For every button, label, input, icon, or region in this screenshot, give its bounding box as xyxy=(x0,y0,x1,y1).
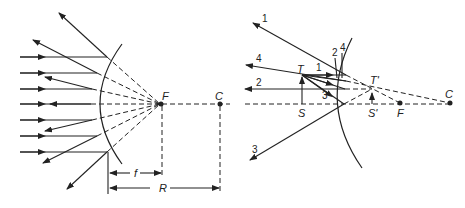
mirror-diagram: F C f R T S T' S' xyxy=(0,0,465,208)
center-label-right: C xyxy=(445,88,453,100)
image-base-label: S' xyxy=(368,107,378,119)
radius-label: R xyxy=(159,182,167,194)
focus-label-right: F xyxy=(397,107,405,119)
ray-4-label-outer: 4 xyxy=(256,53,262,64)
ray-1-label-inner: 1 xyxy=(316,62,322,73)
ray-2-label-mirror: 2 xyxy=(332,47,338,58)
ray-3-label-outer: 3 xyxy=(252,144,258,155)
object-base-label: S xyxy=(298,107,306,119)
focus-label: F xyxy=(162,90,170,102)
ray-3-label-inner: 3 xyxy=(322,90,328,101)
ray-4-label-mirror: 4 xyxy=(340,42,346,53)
virtual-rays-to-focus xyxy=(91,57,160,152)
left-panel: F C f R xyxy=(20,13,230,194)
reflected-rays xyxy=(33,13,107,189)
convex-mirror xyxy=(337,38,362,168)
focal-length-dimension: f xyxy=(110,167,161,179)
ray-1-label-outer: 1 xyxy=(262,13,268,24)
image-top-label: T' xyxy=(370,74,380,86)
focus-point xyxy=(159,102,164,107)
focal-length-label: f xyxy=(134,167,138,179)
ray-2-label-outer: 2 xyxy=(256,77,262,88)
right-panel: T S T' S' F C 1 4 2 3 1 xyxy=(245,13,453,168)
center-point xyxy=(218,102,223,107)
center-label: C xyxy=(215,90,223,102)
radius-dimension: R xyxy=(110,182,219,194)
